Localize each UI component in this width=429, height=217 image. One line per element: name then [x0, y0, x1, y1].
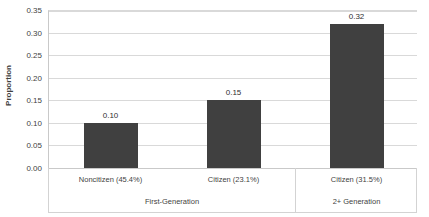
- bar[interactable]: [330, 24, 384, 168]
- y-axis-tick-label: 0.25: [26, 51, 42, 60]
- group-label: 2+ Generation: [295, 190, 418, 212]
- category-label-text: Citizen (31.5%): [331, 175, 382, 184]
- bar-chart: Proportion 0.350.300.250.200.150.100.050…: [0, 0, 429, 217]
- group-label: First-Generation: [49, 190, 295, 212]
- y-axis-tick-label: 0.10: [26, 118, 42, 127]
- bar[interactable]: [84, 123, 138, 168]
- group-label-text: 2+ Generation: [333, 197, 381, 206]
- category-label: Citizen (23.1%): [172, 168, 295, 190]
- y-axis-tick-label: 0.35: [26, 6, 42, 15]
- category-axis: Noncitizen (45.4%)Citizen (23.1%)Citizen…: [48, 168, 417, 213]
- y-axis-title-label: Proportion: [4, 65, 13, 106]
- category-label: Noncitizen (45.4%): [49, 168, 172, 190]
- category-label-text: Noncitizen (45.4%): [79, 175, 142, 184]
- y-axis-tick-labels: 0.350.300.250.200.150.100.050.00: [16, 10, 46, 168]
- y-axis-title: Proportion: [0, 0, 16, 170]
- group-label-text: First-Generation: [145, 197, 199, 206]
- bar-value-label: 0.32: [349, 12, 365, 21]
- y-axis-tick-label: 0.30: [26, 28, 42, 37]
- bar-value-label: 0.10: [103, 111, 119, 120]
- y-axis-tick-label: 0.00: [26, 164, 42, 173]
- plot-area: 0.100.150.32: [48, 10, 417, 168]
- y-axis-tick-label: 0.05: [26, 141, 42, 150]
- bar-value-label: 0.15: [226, 88, 242, 97]
- bars-layer: 0.100.150.32: [49, 11, 417, 168]
- category-label-text: Citizen (23.1%): [208, 175, 259, 184]
- group-divider: [295, 168, 296, 212]
- y-axis-tick-label: 0.20: [26, 73, 42, 82]
- bar[interactable]: [207, 100, 261, 168]
- category-label: Citizen (31.5%): [295, 168, 418, 190]
- y-axis-tick-label: 0.15: [26, 96, 42, 105]
